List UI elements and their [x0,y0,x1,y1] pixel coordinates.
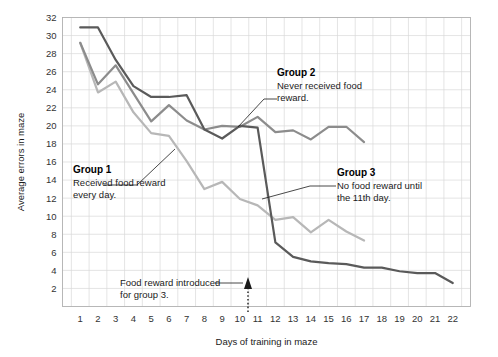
x-tick-label: 11 [253,313,263,324]
leader-line-group2 [238,99,277,127]
annotation-group3-title: Group 3 [337,167,376,178]
x-tick-label: 3 [113,313,118,324]
y-tick-label: 22 [46,102,57,113]
x-tick-label: 18 [377,313,388,324]
x-tick-label: 16 [341,313,352,324]
x-tick-label: 9 [220,313,225,324]
y-tick-label: 20 [46,120,57,131]
x-tick-label: 22 [447,313,458,324]
x-tick-label: 20 [412,313,423,324]
annotation-group2-line1: Never received food [277,80,362,91]
gridlines [63,18,471,307]
y-tick-label: 32 [46,12,57,23]
line-chart: 2468101214161820222426283032 12345678910… [0,0,498,357]
annotation-group2-line2: reward. [277,92,309,103]
x-tick-label: 10 [235,313,246,324]
x-tick-label: 7 [184,313,189,324]
x-tick-label: 5 [149,313,154,324]
y-tick-label: 28 [46,48,57,59]
y-tick-label: 14 [46,174,57,185]
annotation-group3: Group 3 No food reward until the 11th da… [337,167,422,203]
annotation-food-reward-line2: for group 3. [120,289,169,300]
x-tick-label: 15 [323,313,334,324]
x-tick-label: 8 [202,313,207,324]
x-tick-label: 2 [95,313,100,324]
x-tick-label: 14 [306,313,317,324]
annotation-food-reward-line1: Food reward introduced [120,277,220,288]
x-tick-label: 19 [394,313,405,324]
y-axis-title: Average errors in maze [15,113,26,212]
y-tick-label: 24 [46,84,57,95]
y-tick-label: 12 [46,193,57,204]
y-tick-label: 8 [51,229,56,240]
x-tick-label: 12 [270,313,281,324]
annotation-group1-line1: Received food reward [73,177,165,188]
y-tick-label: 4 [51,265,56,276]
y-tick-label: 6 [51,247,56,258]
y-tick-label: 26 [46,66,57,77]
y-tick-label: 2 [51,283,56,294]
x-tick-label: 21 [430,313,441,324]
y-axis-tick-labels: 2468101214161820222426283032 [46,12,57,294]
y-tick-label: 30 [46,30,57,41]
y-tick-label: 16 [46,156,57,167]
y-tick-label: 18 [46,138,57,149]
x-tick-label: 4 [131,313,136,324]
x-tick-label: 6 [166,313,171,324]
x-tick-label: 1 [78,313,83,324]
annotation-group3-line2: the 11th day. [337,192,391,203]
chart-container: 2468101214161820222426283032 12345678910… [0,0,498,357]
y-tick-label: 10 [46,211,57,222]
x-tick-label: 17 [359,313,370,324]
annotation-group2-title: Group 2 [277,67,316,78]
x-tick-label: 13 [288,313,299,324]
series-line-group-1 [80,43,364,241]
annotation-group3-line1: No food reward until [337,180,422,191]
food-reward-arrow-head [244,277,252,289]
annotation-group1: Group 1 Received food reward every day. [73,164,165,200]
x-axis-tick-labels: 12345678910111213141516171819202122 [78,313,458,324]
annotation-group1-line2: every day. [73,189,116,200]
annotation-group1-title: Group 1 [73,164,112,175]
x-axis-title: Days of training in maze [216,336,318,347]
leader-line-group3 [262,186,336,199]
